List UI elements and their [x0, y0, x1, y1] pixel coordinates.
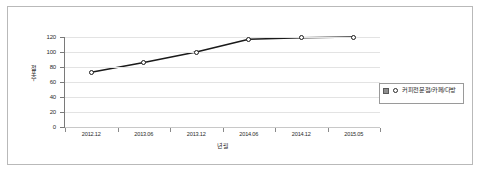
x-axis-tick-label: 2013.12: [173, 131, 219, 138]
y-axis-tick-label: 100: [26, 49, 56, 55]
x-axis-tick: [118, 128, 119, 132]
y-axis-tick-label: 40: [26, 94, 56, 100]
y-axis-tick-label: 120: [26, 34, 56, 40]
y-axis-tick-label: 60: [26, 79, 56, 85]
data-point-marker[interactable]: [351, 35, 356, 40]
gridline: [65, 37, 380, 38]
legend-circle-marker-icon: [393, 88, 398, 93]
x-axis-tick-label: 2015.05: [331, 131, 377, 138]
chart-screenshot: 점포수 년월 커피전문점/카페/다방 0204060801001202012.1…: [0, 0, 480, 177]
y-axis-tick: [60, 97, 65, 98]
x-axis-tick: [380, 128, 381, 132]
gridline: [65, 97, 380, 98]
data-point-marker[interactable]: [246, 37, 251, 42]
x-axis-tick-label: 2012.12: [68, 131, 114, 138]
plot-area: [65, 37, 380, 127]
x-axis-tick: [328, 128, 329, 132]
data-point-marker[interactable]: [89, 70, 94, 75]
x-axis-tick: [275, 128, 276, 132]
y-axis-tick: [60, 52, 65, 53]
y-axis-tick: [60, 112, 65, 113]
legend-item-label: 커피전문점/카페/다방: [402, 86, 461, 93]
x-axis-tick: [65, 128, 66, 132]
data-point-marker[interactable]: [194, 50, 199, 55]
data-point-marker[interactable]: [299, 35, 304, 40]
x-axis-tick-label: 2014.06: [226, 131, 272, 138]
x-axis-tick-label: 2014.12: [278, 131, 324, 138]
y-axis-tick-label: 80: [26, 64, 56, 70]
y-axis-tick-label: 0: [26, 124, 56, 130]
legend-box[interactable]: 커피전문점/카페/다방: [379, 83, 464, 104]
x-axis-tick: [223, 128, 224, 132]
y-axis-tick-label: 20: [26, 109, 56, 115]
y-axis-tick: [60, 67, 65, 68]
y-axis-tick: [60, 82, 65, 83]
gridline: [65, 112, 380, 113]
y-axis-tick: [60, 37, 65, 38]
x-axis-title: 년월: [8, 141, 438, 150]
x-axis-tick: [170, 128, 171, 132]
x-axis-tick-label: 2013.06: [121, 131, 167, 138]
gridline: [65, 52, 380, 53]
gridline: [65, 67, 380, 68]
gridline: [65, 82, 380, 83]
chart-outer-frame: 점포수 년월 커피전문점/카페/다방 0204060801001202012.1…: [7, 6, 473, 165]
legend-checkbox-icon[interactable]: [383, 88, 389, 94]
